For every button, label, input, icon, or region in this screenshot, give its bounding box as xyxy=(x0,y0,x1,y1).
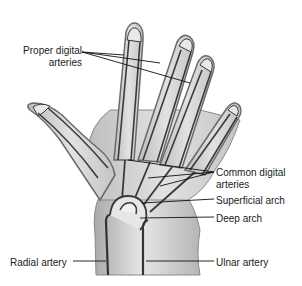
hand-arteries-diagram: Proper digital arteries Common digital a… xyxy=(0,0,302,286)
label-common-digital-line2: arteries xyxy=(216,179,285,191)
label-radial-artery: Radial artery xyxy=(10,257,67,269)
label-ulnar-artery: Ulnar artery xyxy=(216,257,268,269)
forearm xyxy=(94,195,200,275)
label-deep-arch: Deep arch xyxy=(216,213,262,225)
label-proper-digital-line1: Proper digital xyxy=(18,45,82,57)
hand-illustration xyxy=(0,0,302,286)
label-superficial-arch: Superficial arch xyxy=(216,195,285,207)
label-common-digital-arteries: Common digital arteries xyxy=(216,167,285,191)
label-proper-digital-arteries: Proper digital arteries xyxy=(18,45,82,69)
label-proper-digital-line2: arteries xyxy=(18,57,82,69)
label-common-digital-line1: Common digital xyxy=(216,167,285,179)
